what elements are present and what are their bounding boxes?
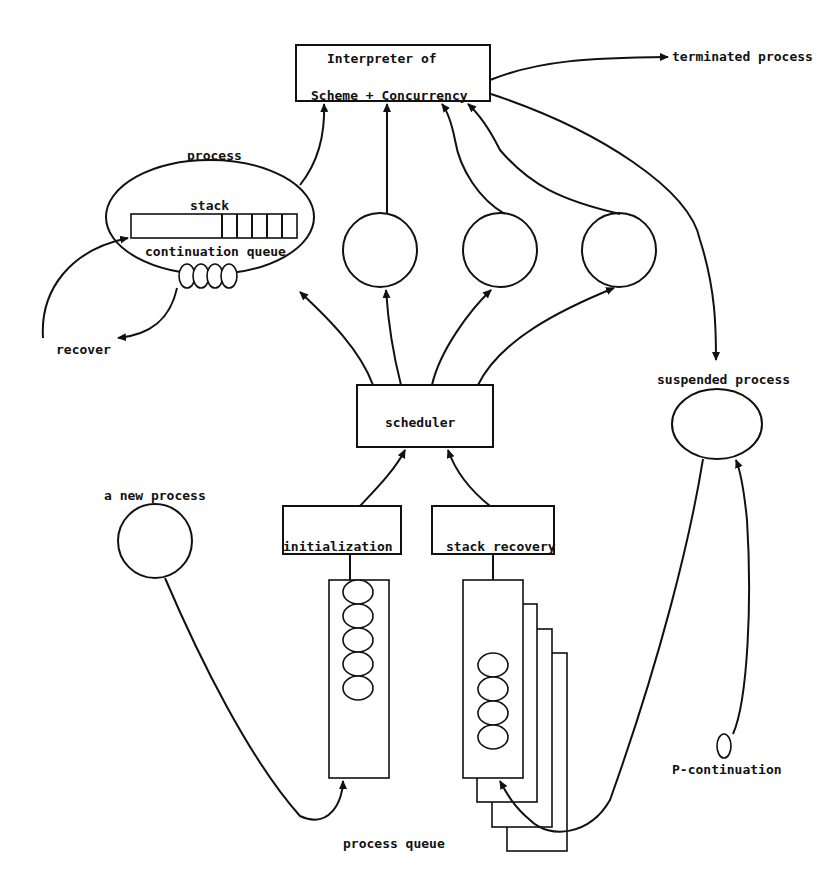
process-to-interpreter-arrow — [300, 104, 324, 185]
p-continuation-label: P-continuation — [672, 762, 782, 777]
circle2-to-interpreter — [442, 104, 505, 214]
recover-out-arrow — [118, 288, 177, 338]
suspended-process-label: suspended process — [657, 372, 790, 387]
interpreter-label-line2: Scheme + Concurrency — [311, 88, 468, 103]
recovery-to-scheduler — [448, 450, 490, 506]
recover-label: recover — [56, 342, 111, 357]
process-queue-label: process queue — [343, 836, 445, 851]
a-new-process-label: a new process — [104, 488, 206, 503]
initialization-queue — [329, 580, 389, 778]
scheduler-label: scheduler — [385, 415, 456, 430]
init-to-scheduler — [360, 450, 405, 506]
terminated-process-label: terminated process — [672, 49, 813, 64]
interpreter-label-line1: Interpreter of — [327, 51, 437, 66]
terminated-arrow — [490, 57, 668, 80]
continuation-queue-label: continuation queue — [145, 244, 286, 259]
recover-in-arrow — [43, 238, 128, 338]
active-process-circles — [343, 213, 656, 287]
p-continuation-arrow — [733, 460, 749, 734]
scheduler-to-circle3 — [478, 288, 614, 385]
scheduler-box: scheduler — [357, 385, 493, 447]
stack-recovery-label: stack recovery — [446, 539, 556, 554]
stack-bar — [131, 214, 297, 238]
initialization-label: initialization — [283, 539, 393, 554]
initialization-box: initialization — [283, 506, 401, 554]
stack-recovery-queues — [463, 580, 567, 851]
scheduler-to-circle1 — [386, 290, 401, 385]
new-process-node — [118, 504, 192, 578]
scheduler-to-process — [300, 292, 373, 385]
process-scheduling-diagram: Interpreter of Scheme + Concurrency term… — [0, 0, 831, 885]
scheduler-to-circle2 — [432, 290, 491, 385]
process-node: process stack continuation queue — [106, 148, 314, 288]
stack-label: stack — [190, 198, 229, 213]
interpreter-box: Interpreter of Scheme + Concurrency — [296, 45, 490, 103]
suspended-process-node — [672, 389, 762, 459]
new-process-to-queue — [165, 578, 343, 820]
stack-recovery-box: stack recovery — [432, 506, 556, 554]
circle3-to-interpreter — [468, 104, 620, 214]
p-continuation-node — [717, 734, 731, 758]
